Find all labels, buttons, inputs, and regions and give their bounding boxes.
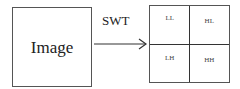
transform-label: SWT [102,13,129,29]
subband-lh: LH [150,44,190,82]
subband-grid: LL HL LH HH [149,5,230,83]
subband-label: HH [190,44,230,64]
subband-hh: HH [190,44,230,82]
subband-label: LH [150,44,190,62]
subband-label: LL [150,6,190,22]
input-image-box: Image [12,7,92,87]
input-image-label: Image [31,38,73,58]
subband-hl: HL [190,6,230,44]
subband-label: HL [190,6,230,25]
arrow-icon [94,38,150,50]
subband-ll: LL [150,6,190,44]
